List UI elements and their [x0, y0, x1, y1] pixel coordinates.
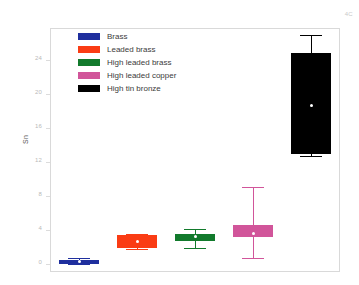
legend: BrassLeaded brassHigh leaded brassHigh l… [78, 31, 176, 94]
whisker-cap-lower [242, 258, 264, 259]
legend-swatch-icon [78, 85, 100, 92]
boxplot-high-leaded-copper [233, 28, 273, 272]
legend-swatch-icon [78, 59, 100, 66]
chart-screenshot: 4C Sn 04812162024 BrassLeaded brassHigh … [0, 0, 359, 285]
median-marker [310, 104, 313, 107]
y-axis-tick-label: 4 [38, 225, 42, 231]
legend-item-brass[interactable]: Brass [78, 31, 176, 42]
whisker-cap-lower [126, 249, 148, 250]
whisker-cap-upper [300, 35, 322, 36]
y-axis-tick-label: 20 [35, 89, 42, 95]
whisker-cap-upper [184, 229, 206, 230]
legend-item-leaded-brass[interactable]: Leaded brass [78, 44, 176, 55]
legend-swatch-icon [78, 33, 100, 40]
y-axis-tick-label: 12 [35, 157, 42, 163]
y-axis-tick-label: 8 [38, 191, 42, 197]
legend-item-high-leaded-copper[interactable]: High leaded copper [78, 70, 176, 81]
whisker-upper [311, 35, 312, 54]
legend-item-high-tin-bronze[interactable]: High tin bronze [78, 83, 176, 94]
boxplot-high-tin-bronze [291, 28, 331, 272]
whisker-lower [195, 241, 196, 249]
y-axis-tick-label: 16 [35, 123, 42, 129]
whisker-cap-lower [184, 248, 206, 249]
box-iqr [233, 225, 273, 237]
legend-item-label: Leaded brass [107, 45, 155, 55]
y-axis-tick-label: 0 [38, 259, 42, 265]
whisker-cap-upper [242, 187, 264, 188]
legend-item-high-leaded-brass[interactable]: High leaded brass [78, 57, 176, 68]
whisker-upper [253, 187, 254, 225]
legend-swatch-icon [78, 46, 100, 53]
y-axis-tick-label: 24 [35, 55, 42, 61]
corner-watermark: 4C [345, 11, 353, 17]
whisker-cap-lower [300, 156, 322, 157]
boxplot-high-leaded-brass [175, 28, 215, 272]
median-marker [136, 240, 139, 243]
whisker-lower [253, 237, 254, 257]
legend-item-label: Brass [107, 32, 127, 42]
y-axis-label: Sn [22, 128, 29, 152]
whisker-cap-lower [68, 264, 90, 265]
median-marker [78, 260, 81, 263]
legend-item-label: High tin bronze [107, 84, 161, 94]
legend-swatch-icon [78, 72, 100, 79]
legend-item-label: High leaded brass [107, 58, 171, 68]
median-marker [194, 235, 197, 238]
legend-item-label: High leaded copper [107, 71, 176, 81]
